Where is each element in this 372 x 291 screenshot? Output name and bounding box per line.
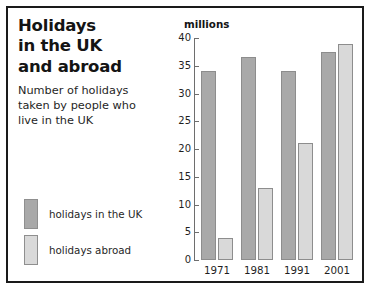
- chart-legend: holidays in the UKholidays abroad: [24, 196, 174, 268]
- x-axis-tick-label: 1981: [238, 264, 276, 276]
- legend-label: holidays abroad: [49, 244, 131, 256]
- y-axis-tick-label: 0: [185, 254, 191, 265]
- bar[interactable]: [241, 57, 256, 260]
- y-axis-tick-label: 30: [178, 88, 191, 99]
- text-panel: Holidaysin the UKand abroad Number of ho…: [18, 16, 158, 129]
- page-title-line: in the UK: [18, 36, 158, 56]
- page-title-line: Holidays: [18, 16, 158, 36]
- y-axis-tick-label: 40: [178, 32, 191, 43]
- legend-label: holidays in the UK: [49, 208, 142, 220]
- bar-group: 1981: [238, 38, 276, 260]
- y-axis-tick-label: 10: [178, 199, 191, 210]
- x-axis-tick-label: 1991: [278, 264, 316, 276]
- x-axis-tick-label: 1971: [198, 264, 236, 276]
- page-title-line: and abroad: [18, 57, 158, 77]
- chart-figure: Holidaysin the UKand abroad Number of ho…: [6, 6, 364, 283]
- x-axis-tick-label: 2001: [318, 264, 356, 276]
- legend-item[interactable]: holidays abroad: [24, 232, 174, 268]
- bar[interactable]: [338, 44, 353, 260]
- chart-subtitle: Number of holidays taken by people who l…: [18, 84, 158, 129]
- bar[interactable]: [298, 143, 313, 260]
- bar-group: 1971: [198, 38, 236, 260]
- bar[interactable]: [258, 188, 273, 260]
- legend-swatch: [24, 199, 38, 229]
- y-axis-tick-label: 25: [178, 115, 191, 126]
- bar[interactable]: [281, 71, 296, 260]
- legend-swatch: [24, 235, 38, 265]
- bar[interactable]: [321, 52, 336, 260]
- y-axis-tick-label: 15: [178, 171, 191, 182]
- y-axis-tick-label: 20: [178, 143, 191, 154]
- bar[interactable]: [201, 71, 216, 260]
- bar-group: 2001: [318, 38, 356, 260]
- legend-item[interactable]: holidays in the UK: [24, 196, 174, 232]
- page-title: Holidaysin the UKand abroad: [18, 16, 158, 77]
- bar-groups: 1971198119912001: [195, 38, 358, 260]
- y-axis-tick-mark: [194, 260, 199, 261]
- y-axis-tick-label: 35: [178, 60, 191, 71]
- y-axis-units-label: millions: [184, 18, 229, 30]
- bar[interactable]: [218, 238, 233, 260]
- axis-area: 0510152025303540 1971198119912001: [158, 38, 358, 260]
- bar-group: 1991: [278, 38, 316, 260]
- y-axis-tick-label: 5: [185, 226, 191, 237]
- plot-area: millions 0510152025303540 19711981199120…: [158, 18, 358, 278]
